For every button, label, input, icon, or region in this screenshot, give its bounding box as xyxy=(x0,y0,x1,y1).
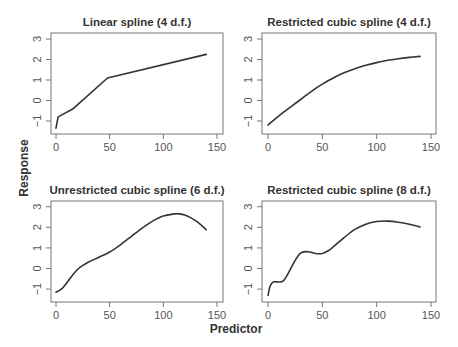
x-tick-label: 150 xyxy=(422,141,440,153)
x-tick-label: 50 xyxy=(104,141,116,153)
plot-frame xyxy=(51,201,223,302)
x-axis: 050100150 xyxy=(53,134,226,153)
x-tick-label: 0 xyxy=(265,309,271,321)
panel-title: Restricted cubic spline (4 d.f.) xyxy=(267,16,431,28)
data-curve xyxy=(56,54,206,128)
y-axis: −10123 xyxy=(242,36,262,127)
y-axis: −10123 xyxy=(242,204,262,296)
panel-restricted-cubic-4df: Restricted cubic spline (4 d.f.) −10123 … xyxy=(242,16,440,153)
x-tick-label: 50 xyxy=(104,309,116,321)
y-tick-label: 1 xyxy=(242,77,254,83)
y-tick-label: 1 xyxy=(31,245,43,251)
y-axis-label: Response xyxy=(17,139,31,197)
y-tick-label: 0 xyxy=(242,97,254,103)
y-tick-label: 2 xyxy=(242,224,254,230)
y-tick-label: 3 xyxy=(242,36,254,42)
x-tick-label: 0 xyxy=(53,309,59,321)
x-tick-label: 100 xyxy=(154,309,172,321)
x-axis: 050100150 xyxy=(53,302,226,321)
y-tick-label: 0 xyxy=(31,265,43,271)
panel-title: Linear spline (4 d.f.) xyxy=(83,16,192,28)
x-tick-label: 100 xyxy=(367,309,385,321)
x-tick-label: 150 xyxy=(422,309,440,321)
y-tick-label: −1 xyxy=(242,115,254,128)
panel-linear-spline: Linear spline (4 d.f.) −10123 050100150 xyxy=(31,16,226,153)
panel-title: Restricted cubic spline (8 d.f.) xyxy=(267,184,431,196)
y-tick-label: −1 xyxy=(242,283,254,296)
x-axis: 050100150 xyxy=(265,134,440,153)
y-tick-label: 3 xyxy=(31,204,43,210)
y-tick-label: 1 xyxy=(31,77,43,83)
x-tick-label: 0 xyxy=(265,141,271,153)
x-tick-label: 50 xyxy=(316,141,328,153)
data-curve xyxy=(56,214,206,292)
y-tick-label: −1 xyxy=(31,283,43,296)
y-tick-label: 2 xyxy=(31,56,43,62)
plot-frame xyxy=(51,33,223,134)
x-tick-label: 0 xyxy=(53,141,59,153)
y-tick-label: 0 xyxy=(31,97,43,103)
panel-title: Unrestricted cubic spline (6 d.f.) xyxy=(49,184,224,196)
y-tick-label: 2 xyxy=(242,56,254,62)
y-tick-label: 2 xyxy=(31,224,43,230)
y-tick-label: 0 xyxy=(242,265,254,271)
spline-comparison-figure: Linear spline (4 d.f.) −10123 050100150 … xyxy=(0,0,458,347)
plot-frame xyxy=(262,201,436,302)
y-tick-label: 3 xyxy=(31,36,43,42)
x-axis-label: Predictor xyxy=(210,322,263,336)
y-tick-label: 1 xyxy=(242,245,254,251)
x-tick-label: 50 xyxy=(316,309,328,321)
x-tick-label: 150 xyxy=(208,309,226,321)
y-tick-label: −1 xyxy=(31,115,43,128)
x-tick-label: 100 xyxy=(367,141,385,153)
data-curve xyxy=(268,221,420,295)
data-curve xyxy=(268,56,420,125)
x-tick-label: 150 xyxy=(208,141,226,153)
panel-unrestricted-cubic-6df: Unrestricted cubic spline (6 d.f.) −1012… xyxy=(31,184,226,321)
x-axis: 050100150 xyxy=(265,302,440,321)
y-tick-label: 3 xyxy=(242,204,254,210)
plot-frame xyxy=(262,33,436,134)
panel-restricted-cubic-8df: Restricted cubic spline (8 d.f.) −10123 … xyxy=(242,184,440,321)
y-axis: −10123 xyxy=(31,204,51,296)
x-tick-label: 100 xyxy=(154,141,172,153)
y-axis: −10123 xyxy=(31,36,51,127)
